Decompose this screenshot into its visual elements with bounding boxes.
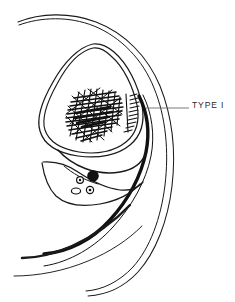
ringed-vessel-left-core: [79, 179, 81, 181]
figure-canvas: [0, 0, 235, 302]
annotation-label-type-i: TYPE I: [192, 101, 224, 110]
open-vessel-oval: [71, 188, 80, 194]
anatomical-figure: TYPE I: [0, 0, 235, 302]
large-filled-vessel: [88, 171, 98, 181]
ringed-vessel-lower-core: [89, 189, 92, 192]
